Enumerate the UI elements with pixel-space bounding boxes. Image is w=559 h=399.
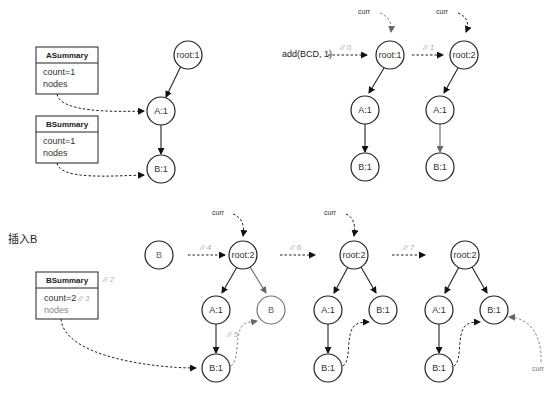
bsummary-title: BSummary: [46, 120, 89, 129]
step3-comment: // 3: [77, 294, 90, 303]
curr-label-2: curr: [436, 8, 449, 15]
svg-text:B:1: B:1: [432, 363, 446, 373]
asummary-nodes-pointer: [57, 94, 144, 111]
bsummary-nodes-pointer-updated: [61, 319, 196, 368]
step6-comment: // 6: [289, 243, 302, 252]
svg-text:B:1: B:1: [321, 363, 335, 373]
bsummary-box-updated: BSummary count=2// 3 nodes: [36, 272, 98, 319]
add-call-label: add(BCD, 1): [282, 49, 332, 59]
tree-step6: root:2 A:1 B:1 B:1: [314, 241, 397, 382]
insert-b-heading: 插入B: [8, 232, 37, 245]
svg-text:BSummary: BSummary: [46, 276, 89, 285]
svg-text:A:1: A:1: [358, 105, 372, 115]
svg-text:root:1: root:1: [176, 50, 199, 60]
svg-text:B: B: [268, 305, 274, 315]
svg-text:B:1: B:1: [209, 363, 223, 373]
svg-text:B:1: B:1: [487, 305, 501, 315]
svg-text:nodes: nodes: [44, 305, 69, 315]
svg-text:count=2// 3: count=2// 3: [44, 293, 90, 303]
curr-pointer-5: [509, 317, 541, 362]
tree-initial: root:1 A:1 B:1: [147, 41, 202, 183]
svg-text:root:1: root:1: [378, 50, 401, 60]
svg-text:root:2: root:2: [342, 250, 365, 260]
svg-text:root:2: root:2: [231, 250, 254, 260]
svg-text:A:1: A:1: [154, 106, 168, 116]
curr-label-4: curr: [324, 209, 337, 216]
diagram-canvas: ASummary count=1 nodes BSummary count=1 …: [0, 0, 559, 399]
svg-text:A:1: A:1: [433, 105, 447, 115]
asummary-nodes: nodes: [43, 79, 68, 89]
svg-text:B:1: B:1: [358, 162, 372, 172]
new-node-b: B: [145, 241, 173, 269]
svg-text:A:1: A:1: [209, 305, 223, 315]
asummary-title: ASummary: [46, 51, 89, 60]
tree-b-link-pointer: [343, 322, 369, 366]
svg-text:B:1: B:1: [154, 164, 168, 174]
step4-comment: // 4: [199, 243, 212, 252]
svg-text:B:1: B:1: [433, 162, 447, 172]
curr-pointer-1: [380, 13, 391, 32]
bsummary-nodes-pointer: [57, 163, 144, 176]
curr-pointer-4: [346, 214, 355, 236]
svg-text:root:2: root:2: [453, 250, 476, 260]
step1-comment: // 1: [422, 43, 434, 52]
step5-comment: // 5: [226, 330, 239, 339]
step5-pointer: [231, 321, 257, 366]
asummary-count: count=1: [43, 67, 75, 77]
step7-comment: // 7: [402, 243, 415, 252]
curr-pointer-3: [233, 214, 244, 236]
svg-text:B:1: B:1: [376, 305, 390, 315]
curr-label-1: curr: [358, 8, 371, 15]
svg-text:root:2: root:2: [452, 50, 475, 60]
bsummary-nodes: nodes: [43, 148, 68, 158]
tree-step7: root:2 A:1 B:1 B:1: [425, 241, 508, 382]
svg-text:B: B: [156, 250, 162, 260]
bsummary-count: count=1: [43, 136, 75, 146]
tree-step4: root:2 A:1 B B:1: [202, 241, 285, 382]
step2-comment: // 2: [102, 275, 115, 284]
curr-label-5: curr: [532, 365, 545, 372]
svg-text:A:1: A:1: [321, 305, 335, 315]
svg-text:A:1: A:1: [432, 305, 446, 315]
bsummary-count: count=2: [44, 293, 76, 303]
step0-comment: // 0: [339, 43, 352, 52]
asummary-box: ASummary count=1 nodes: [36, 47, 98, 94]
bsummary-box: BSummary count=1 nodes: [36, 116, 98, 163]
curr-pointer-2: [458, 13, 468, 32]
tree-step1: root:2 A:1 B:1: [426, 41, 478, 181]
curr-label-3: curr: [212, 209, 225, 216]
tree-c-link-pointer: [454, 322, 480, 366]
tree-step0: root:1 A:1 B:1: [351, 41, 404, 181]
